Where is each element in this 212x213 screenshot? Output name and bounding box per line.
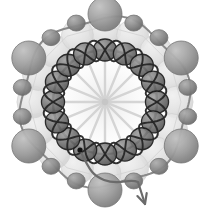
outer-large-bead (12, 41, 46, 75)
outer-small-bead (13, 109, 31, 125)
outer-small-bead (150, 158, 168, 174)
outer-small-bead (125, 15, 143, 31)
outer-small-bead (13, 79, 31, 95)
outer-small-bead (67, 173, 85, 189)
chain-start-dot (77, 147, 82, 152)
outer-large-bead (164, 129, 198, 163)
figure-container (0, 0, 212, 213)
outer-small-bead (150, 30, 168, 46)
hub-core (102, 99, 108, 105)
outer-small-bead (179, 109, 197, 125)
outer-small-bead (179, 79, 197, 95)
outer-small-bead (42, 158, 60, 174)
outer-large-bead (164, 41, 198, 75)
outer-small-bead (67, 15, 85, 31)
outer-large-bead (88, 0, 122, 31)
outer-small-bead (42, 30, 60, 46)
outer-large-bead (88, 173, 122, 207)
outer-large-bead (12, 129, 46, 163)
bead-ring-figure (0, 0, 212, 213)
